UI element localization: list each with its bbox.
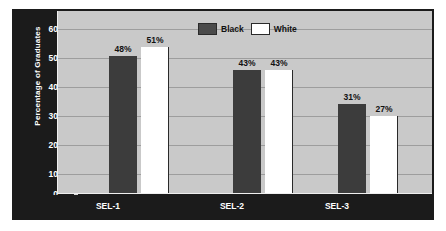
legend-item-black[interactable]: Black xyxy=(198,23,244,35)
white-swatch-icon xyxy=(251,23,270,35)
bar-value-sel-1-black: 48% xyxy=(105,44,141,54)
y-tick-label-30: 30 xyxy=(28,112,58,121)
bar-sel-3-white[interactable] xyxy=(370,116,398,193)
bar-value-sel-1-white: 51% xyxy=(137,35,173,45)
y-tick-label-40: 40 xyxy=(28,83,58,92)
bar-value-sel-3-black: 31% xyxy=(334,92,370,102)
bar-sel-1-black[interactable] xyxy=(109,56,137,193)
bar-value-sel-2-black: 43% xyxy=(229,58,265,68)
legend-item-white[interactable]: White xyxy=(251,23,297,35)
bar-sel-2-white[interactable] xyxy=(265,70,293,193)
plot-area: 48% 51% 43% 43% 31% 27% xyxy=(57,11,432,194)
chart-frame: Percentage of Graduates 60 50 40 30 20 1… xyxy=(12,9,434,220)
legend-label-white: White xyxy=(274,24,297,34)
bar-sel-2-black[interactable] xyxy=(233,70,261,193)
y-tick-label-10: 10 xyxy=(28,170,58,179)
chart-legend: Black White xyxy=(198,21,297,37)
bar-sel-1-white[interactable] xyxy=(141,47,169,193)
y-tick-label-50: 50 xyxy=(28,54,58,63)
y-tick-label-20: 20 xyxy=(28,141,58,150)
x-axis-band: SEL-1 SEL-2 SEL-3 xyxy=(12,195,434,220)
black-swatch-icon xyxy=(198,23,217,35)
x-tick-label-sel-1: SEL-1 xyxy=(76,201,140,211)
x-tick-label-sel-3: SEL-3 xyxy=(305,201,369,211)
legend-label-black: Black xyxy=(221,24,244,34)
bar-value-sel-2-white: 43% xyxy=(261,58,297,68)
y-axis-tick-labels: 60 50 40 30 20 10 0 xyxy=(28,9,58,220)
y-tick-label-60: 60 xyxy=(28,25,58,34)
bar-sel-3-black[interactable] xyxy=(338,104,366,193)
x-tick-label-sel-2: SEL-2 xyxy=(200,201,264,211)
bar-chart: Percentage of Graduates 60 50 40 30 20 1… xyxy=(0,0,446,231)
bar-value-sel-3-white: 27% xyxy=(366,104,402,114)
